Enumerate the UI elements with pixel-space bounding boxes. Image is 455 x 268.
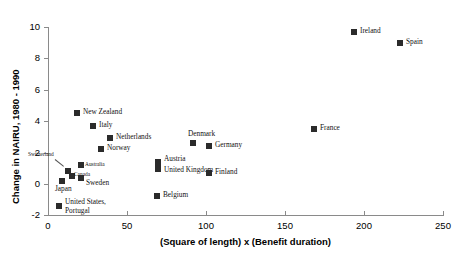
data-label-denmark: Denmark [188, 130, 215, 138]
data-point-finland [206, 170, 212, 176]
y-tick-label--2: -2 [12, 209, 40, 220]
data-label-netherlands: Netherlands [116, 133, 151, 141]
x-tick-250 [443, 211, 444, 216]
x-tick-label-200: 200 [346, 220, 382, 231]
x-tick-label-100: 100 [188, 220, 224, 231]
data-label-sweden: Sweden [86, 179, 109, 187]
data-label-finland: Finland [215, 168, 237, 176]
data-label-norway: Norway [107, 144, 131, 152]
y-tick-8 [44, 58, 49, 59]
x-tick-label-250: 250 [425, 220, 455, 231]
data-label-japan: Japan [55, 185, 72, 193]
data-point-netherlands [107, 135, 113, 141]
y-tick-6 [44, 90, 49, 91]
data-point-new-zealand [74, 110, 80, 116]
x-tick-label-0: 0 [30, 220, 66, 231]
switzerland-leader-line [55, 159, 64, 167]
y-tick-label-8: 8 [12, 52, 40, 63]
x-tick-100 [206, 211, 207, 216]
data-point-italy [90, 123, 96, 129]
y-axis-title: Change in NAIRU, 1980 - 1990 [10, 69, 21, 204]
plot-area: 10 8 6 4 2 0 -2 0 50 100 150 200 250 Cha… [0, 0, 455, 268]
data-point-germany [206, 143, 212, 149]
y-tick-label-10: 10 [12, 21, 40, 32]
x-tick-150 [285, 211, 286, 216]
data-point-ireland [351, 29, 357, 35]
x-tick-200 [364, 211, 365, 216]
data-label-united-states: United States, [65, 198, 106, 206]
data-label-switzerland: Switzerland [28, 152, 54, 158]
x-axis-title: (Square of length) x (Benefit duration) [123, 236, 368, 247]
y-tick-4 [44, 121, 49, 122]
data-label-austria: Austria [164, 155, 185, 163]
data-point-united-states-portugal [56, 203, 62, 209]
data-point-spain [397, 40, 403, 46]
data-point-austria-united-kingdom [155, 159, 161, 172]
x-tick-50 [127, 211, 128, 216]
data-point-belgium [154, 193, 160, 199]
data-point-denmark [190, 140, 196, 146]
y-tick-10 [44, 27, 49, 28]
data-label-new-zealand: New Zealand [83, 108, 122, 116]
data-label-france: France [320, 124, 340, 132]
x-tick-label-150: 150 [267, 220, 303, 231]
scatter-chart: 10 8 6 4 2 0 -2 0 50 100 150 200 250 Cha… [0, 0, 455, 268]
x-tick-0 [48, 211, 49, 216]
data-label-germany: Germany [215, 141, 242, 149]
data-point-france [311, 126, 317, 132]
data-label-australia: Australia [85, 162, 105, 168]
data-label-ireland: Ireland [360, 27, 381, 35]
data-point-sweden [78, 175, 84, 181]
data-label-italy: Italy [99, 121, 112, 129]
x-tick-label-50: 50 [109, 220, 145, 231]
y-tick-0 [44, 184, 49, 185]
data-label-belgium: Belgium [163, 191, 188, 199]
data-point-norway [98, 146, 104, 152]
data-point-australia [78, 162, 84, 168]
data-label-portugal: Portugal [65, 207, 90, 215]
data-label-spain: Spain [406, 38, 423, 46]
x-axis-line [48, 215, 443, 216]
